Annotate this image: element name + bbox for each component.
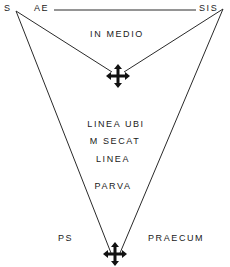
label-ae: AE: [34, 3, 49, 13]
label-ps: PS: [58, 233, 73, 243]
label-m-secat: M SECAT: [90, 136, 141, 146]
label-sis: SIS: [199, 3, 218, 13]
right-outer-line: [120, 9, 223, 253]
geometry-diagram: S AE SIS IN MEDIO LINEA UBI M SECAT LINE…: [0, 0, 230, 267]
label-praecum: PRAECUM: [148, 233, 204, 243]
label-parva: PARVA: [94, 181, 131, 191]
left-inner-line: [16, 11, 112, 72]
move-arrows-icon[interactable]: [105, 63, 131, 89]
diagram-lines: [0, 0, 230, 267]
move-arrows-icon[interactable]: [102, 241, 128, 267]
label-in-medio: IN MEDIO: [90, 29, 144, 39]
label-linea-ubi: LINEA UBI: [87, 119, 144, 129]
vertex-label-s: S: [4, 3, 12, 13]
right-inner-line: [124, 9, 223, 72]
left-outer-line: [16, 11, 111, 253]
label-linea: LINEA: [96, 154, 130, 164]
